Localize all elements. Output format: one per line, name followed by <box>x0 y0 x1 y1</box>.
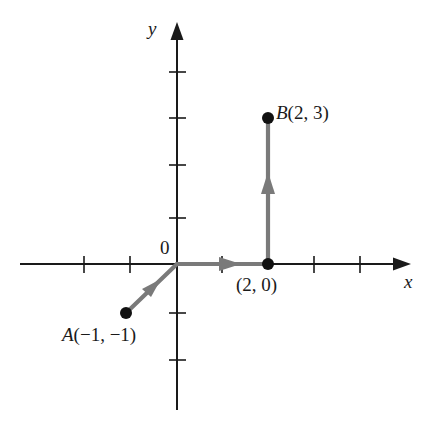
figure-canvas <box>0 0 434 427</box>
point-label-2-0: (2, 0) <box>236 275 277 294</box>
point-marker-b <box>262 112 274 124</box>
vector-origin-to-point-2-0-arrowhead <box>219 257 241 271</box>
x-axis-arrowhead <box>393 258 411 271</box>
x-axis-label: x <box>404 272 412 291</box>
y-axis-arrowhead <box>171 22 184 40</box>
point-label-b: B(2, 3) <box>276 103 329 122</box>
point-label-a: A(−1, −1) <box>62 325 136 344</box>
point-marker-2-0 <box>262 258 274 270</box>
vector-point-2-0-to-b <box>261 118 275 264</box>
coordinate-plane-figure: y x 0 B(2, 3) A(−1, −1) (2, 0) <box>0 0 434 427</box>
origin-label: 0 <box>160 238 170 257</box>
vector-point-2-0-to-b-arrowhead <box>261 172 275 194</box>
point-marker-a <box>120 307 132 319</box>
vector-origin-to-point-2-0 <box>177 257 268 271</box>
vector-a-to-origin <box>126 264 177 313</box>
y-axis-label: y <box>148 19 156 38</box>
